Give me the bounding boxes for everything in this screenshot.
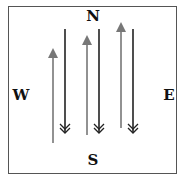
- down-arrow-3: [128, 29, 138, 133]
- south-label: S: [88, 151, 99, 169]
- west-label: W: [12, 86, 31, 104]
- arrowhead-up-icon: [82, 35, 92, 45]
- down-arrow-2: [94, 29, 104, 133]
- up-arrow-1: [48, 48, 58, 143]
- up-arrow-2: [82, 35, 92, 135]
- up-arrow-3: [116, 22, 126, 128]
- diagram-border: [9, 7, 177, 174]
- compass-arrow-diagram: N S W E: [0, 0, 181, 190]
- down-arrow-1: [60, 29, 70, 133]
- arrowhead-up-icon: [48, 48, 58, 58]
- north-label: N: [86, 7, 100, 25]
- upward-arrows-group: [48, 22, 126, 143]
- downward-arrows-group: [60, 29, 138, 133]
- arrowhead-up-icon: [116, 22, 126, 32]
- east-label: E: [163, 86, 174, 104]
